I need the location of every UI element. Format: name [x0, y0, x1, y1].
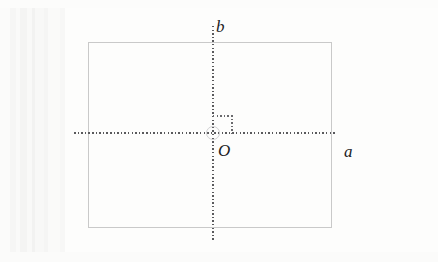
scan-band: [20, 0, 27, 262]
scan-band: [0, 0, 10, 262]
figure-canvas: b a O: [0, 0, 438, 262]
origin-circle-marker: [206, 126, 220, 140]
page-edge-bottom: [0, 252, 438, 262]
scan-band: [10, 0, 16, 262]
vertical-axis-label: b: [216, 18, 225, 35]
scan-band: [60, 0, 65, 262]
right-angle-mark-right: [231, 115, 233, 134]
scan-band: [32, 0, 35, 262]
right-angle-mark-top: [213, 115, 233, 117]
horizontal-axis-line: [74, 132, 336, 134]
scan-band: [44, 0, 48, 262]
scan-band: [16, 0, 20, 262]
scan-band: [35, 0, 44, 262]
origin-label: O: [218, 142, 230, 159]
page-edge-top: [0, 0, 438, 8]
scan-band: [27, 0, 32, 262]
scan-band: [48, 0, 60, 262]
horizontal-axis-label: a: [344, 143, 353, 160]
